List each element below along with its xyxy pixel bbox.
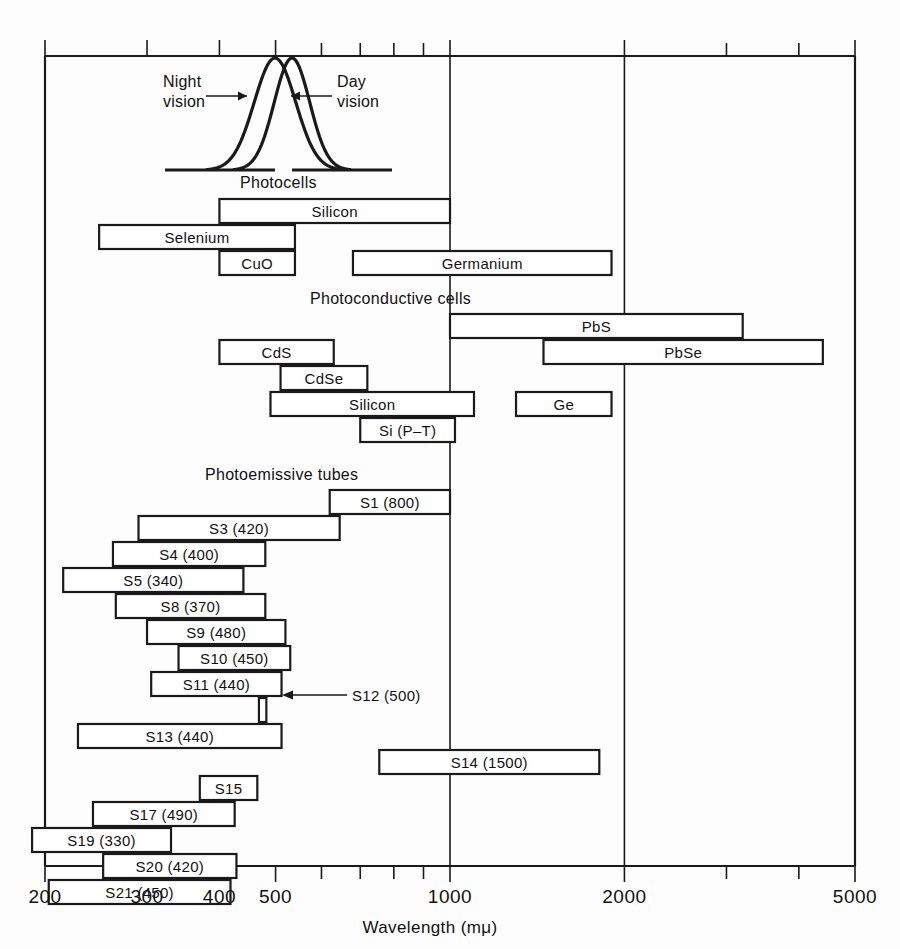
bar-label-photoemissive-tubes-S13: S13 (440) <box>145 728 214 745</box>
section-label-photocells: Photocells <box>240 174 317 192</box>
section-label-photoconductive-cells: Photoconductive cells <box>310 290 471 308</box>
bar-label-photoconductive-cells-Silicon: Silicon <box>349 396 395 413</box>
bar-label-photoemissive-tubes-S20: S20 (420) <box>136 858 205 875</box>
bar-label-photocells-Silicon: Silicon <box>312 203 358 220</box>
bar-label-photoemissive-tubes-S8: S8 (370) <box>161 598 221 615</box>
bar-label-photocells-Selenium: Selenium <box>165 229 230 246</box>
bar-label-photoconductive-cells-PbS: PbS <box>582 318 611 335</box>
s12-callout-label: S12 (500) <box>352 687 421 704</box>
x-axis-title: Wavelength (mμ) <box>362 918 497 938</box>
bar-label-photocells-Germanium: Germanium <box>442 255 523 272</box>
x-tick-label-400: 400 <box>203 886 236 908</box>
bar-photoemissive-tubes-S12 <box>259 698 266 722</box>
section-label-photoemissive-tubes: Photoemissive tubes <box>205 466 358 484</box>
bar-label-photoemissive-tubes-S15: S15 <box>215 780 243 797</box>
bar-label-photoemissive-tubes-S4: S4 (400) <box>159 546 219 563</box>
x-tick-label-5000: 5000 <box>833 886 877 908</box>
curve-night-vision <box>207 58 343 169</box>
day-vision-label: Dayvision <box>337 72 379 112</box>
x-tick-label-500: 500 <box>259 886 292 908</box>
bar-label-photoconductive-cells-CdS: CdS <box>262 344 292 361</box>
bar-label-photoconductive-cells-PbSe: PbSe <box>664 344 702 361</box>
night-vision-label: Nightvision <box>163 72 205 112</box>
x-tick-label-2000: 2000 <box>602 886 646 908</box>
chart-canvas: 200300400500100020005000Wavelength (mμ)N… <box>0 0 900 949</box>
bar-label-photoemissive-tubes-S1: S1 (800) <box>360 494 420 511</box>
bar-label-photoemissive-tubes-S5: S5 (340) <box>123 572 183 589</box>
night-vision-arrow-head <box>238 92 247 101</box>
bar-label-photoemissive-tubes-S10: S10 (450) <box>200 650 269 667</box>
bar-label-photocells-CuO: CuO <box>241 255 273 272</box>
bar-label-photoemissive-tubes-S21: S21 (450) <box>105 884 174 901</box>
bar-label-photoemissive-tubes-S9: S9 (480) <box>186 624 246 641</box>
s12-callout-head <box>282 691 293 700</box>
bar-label-photoemissive-tubes-S3: S3 (420) <box>209 520 269 537</box>
bar-label-photoconductive-cells-Ge: Ge <box>553 396 574 413</box>
bar-label-photoconductive-cells-Si (P-T): Si (P–T) <box>379 422 436 439</box>
bar-label-photoemissive-tubes-S11: S11 (440) <box>183 676 250 693</box>
bar-label-photoconductive-cells-CdSe: CdSe <box>305 370 344 387</box>
x-tick-label-1000: 1000 <box>428 886 472 908</box>
bar-label-photoemissive-tubes-S14: S14 (1500) <box>451 754 528 771</box>
bar-label-photoemissive-tubes-S17: S17 (490) <box>130 806 199 823</box>
bar-label-photoemissive-tubes-S19: S19 (330) <box>67 832 136 849</box>
x-tick-label-200: 200 <box>28 886 61 908</box>
